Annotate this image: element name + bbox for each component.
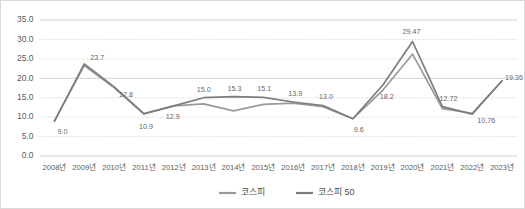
data-point-label: 15.0 [197,85,211,94]
x-tick-label: 2014년 [222,162,246,172]
y-axis-tick-labels: 0.05.010.015.020.025.030.035.0 [17,14,34,160]
series-line-1 [54,54,502,121]
data-point-label: 10.9 [139,122,153,131]
data-point-label: 29.47 [403,27,421,36]
data-point-label: 13.0 [319,92,333,101]
x-tick-label: 2023년 [490,162,514,172]
legend-label-1: 코스피 [241,187,265,197]
gridlines-group [40,20,518,156]
x-tick-label: 2019년 [371,162,395,172]
data-point-labels-group: 9.023.717.810.912.915.015.315.113.913.09… [57,27,523,136]
y-tick-label: 30.0 [17,34,34,44]
x-tick-label: 2012년 [162,162,186,172]
x-tick-label: 2020년 [401,162,425,172]
x-axis-tick-labels: 2008년2009년2010년2011년2012년2013년2014년2015년… [42,162,514,172]
data-point-label: 17.8 [119,90,133,99]
x-tick-label: 2022년 [460,162,484,172]
x-tick-label: 2021년 [430,162,454,172]
x-tick-label: 2011년 [132,162,155,172]
y-tick-label: 0.0 [22,150,34,160]
y-tick-label: 35.0 [17,14,34,24]
x-tick-label: 2015년 [251,162,275,172]
data-point-label: 18.2 [380,92,394,101]
y-tick-label: 5.0 [22,131,34,141]
x-tick-label: 2017년 [311,162,335,172]
chart-plot-area: 0.05.010.015.020.025.030.035.0 2008년2009… [1,1,525,209]
data-point-label: 15.3 [227,84,241,93]
data-point-label: 15.1 [257,84,271,93]
x-tick-label: 2013년 [192,162,216,172]
series-lines-group [54,41,502,121]
data-point-label: 10.76 [477,116,495,125]
data-point-label: 12.9 [166,112,180,121]
chart-legend: 코스피코스피 50 [219,187,355,197]
x-tick-label: 2016년 [281,162,305,172]
y-tick-label: 25.0 [17,53,34,63]
x-tick-label: 2010년 [102,162,126,172]
x-tick-label: 2008년 [42,162,66,172]
x-tick-label: 2009년 [72,162,96,172]
y-tick-label: 20.0 [17,73,34,83]
series-line-2 [54,41,502,121]
y-tick-label: 15.0 [17,92,34,102]
legend-label-2: 코스피 50 [318,187,355,197]
data-point-label: 23.7 [90,53,104,62]
y-tick-label: 10.0 [17,111,34,121]
data-point-label: 12.72 [439,94,457,103]
data-point-label: 9.6 [354,125,364,134]
line-chart-container: 0.05.010.015.020.025.030.035.0 2008년2009… [0,0,525,209]
data-point-label: 19.36 [505,73,523,82]
x-tick-label: 2018년 [341,162,365,172]
data-point-label: 9.0 [57,127,67,136]
data-point-label: 13.9 [288,89,302,98]
